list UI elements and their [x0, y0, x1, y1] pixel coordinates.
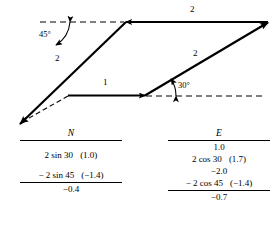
vector-label-2-at-45: 2	[55, 54, 60, 63]
north-row-0	[12, 141, 130, 149]
north-column: N 2 sin 30(1.0) − 2 sin 45(−1.4) −0.4	[12, 128, 130, 195]
east-row-1: 2 cos 30(1.7)	[160, 153, 278, 165]
vector-label-2-west: 2	[190, 5, 195, 14]
vector-label-2-at-30: 2	[193, 49, 198, 58]
east-row-0: 1.0	[160, 141, 278, 153]
angle-45-arc	[56, 22, 70, 45]
vector-2-at-45-line	[20, 22, 126, 124]
vector-2-at-30-line	[145, 23, 268, 96]
north-row-3-paren: (−1.4)	[74, 170, 103, 180]
east-row-3-expr: − 2 cos 45	[186, 178, 223, 188]
east-column-header: E	[160, 128, 278, 139]
north-row-3: − 2 sin 45(−1.4)	[12, 169, 130, 181]
angle-30-arc	[171, 79, 176, 96]
east-row-1-expr: 2 cos 30	[192, 154, 222, 164]
north-column-header: N	[12, 128, 130, 139]
angle-45-label: 45°	[39, 30, 51, 39]
north-row-3-expr: − 2 sin 45	[38, 170, 74, 180]
north-sum: −0.4	[12, 183, 130, 195]
north-row-1-paren: (1.0)	[73, 150, 97, 160]
angle-30-label: 30°	[178, 81, 190, 90]
north-row-1-expr: 2 sin 30	[45, 150, 74, 160]
east-row-0-expr: 1.0	[213, 142, 224, 152]
east-row-3-paren: (−1.4)	[223, 178, 252, 188]
figure-canvas: 2 2 2 1 45° 30° N 2 sin 30(1.0) − 2 sin …	[0, 0, 279, 225]
north-row-2	[12, 161, 130, 169]
vector-label-1-east: 1	[103, 78, 108, 87]
east-column: E 1.0 2 cos 30(1.7) −2.0 − 2 cos 45(−1.4…	[160, 128, 278, 203]
east-row-1-paren: (1.7)	[222, 154, 246, 164]
east-sum: −0.7	[160, 191, 278, 203]
east-row-2: −2.0	[160, 165, 278, 177]
east-row-2-expr: −2.0	[211, 166, 227, 176]
north-row-1: 2 sin 30(1.0)	[12, 149, 130, 161]
east-row-3: − 2 cos 45(−1.4)	[160, 177, 278, 189]
